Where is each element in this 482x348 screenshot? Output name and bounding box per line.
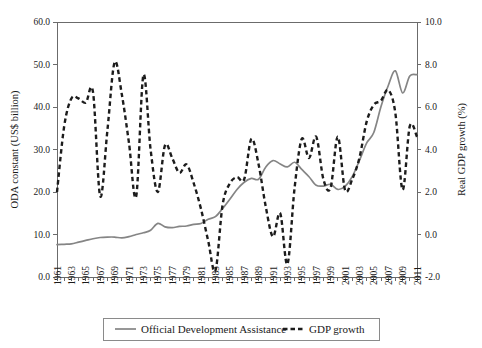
left-tick-label: 20.0 (33, 187, 50, 197)
chart-figure: 0.010.020.030.040.050.060.0 -2.00.02.04.… (0, 0, 482, 348)
x-tick-label: 1973 (139, 266, 149, 285)
right-tick-label: 2.0 (425, 187, 437, 197)
x-tick-label: 1965 (81, 266, 91, 285)
left-tick-label: 50.0 (33, 60, 50, 70)
x-tick-label: 2007 (384, 266, 394, 285)
right-tick-label: 10.0 (425, 17, 442, 27)
x-tick-label: 1975 (153, 266, 163, 285)
right-tick-label: 4.0 (425, 145, 437, 155)
dual-axis-line-chart: 0.010.020.030.040.050.060.0 -2.00.02.04.… (0, 0, 482, 348)
left-tick-label: 30.0 (33, 145, 50, 155)
x-tick-label: 1967 (96, 266, 106, 285)
left-tick-label: 40.0 (33, 102, 50, 112)
x-tick-label: 2001 (341, 266, 351, 285)
legend-label-gdp-growth: GDP growth (309, 323, 365, 335)
right-tick-label: 6.0 (425, 102, 437, 112)
right-tick-label: -2.0 (425, 272, 440, 282)
x-tick-label: 1979 (182, 266, 192, 285)
x-tick-label: 1999 (326, 266, 336, 285)
right-axis-title: Real GDP growth (%) (456, 102, 468, 196)
left-tick-label: 60.0 (33, 17, 50, 27)
x-axis-ticks: 1961196319651967196919711973197519771979… (53, 266, 423, 285)
x-tick-label: 1963 (67, 266, 77, 285)
legend-label-oda: Official Development Assistance (141, 323, 286, 335)
x-tick-label: 1981 (197, 266, 207, 285)
x-tick-label: 1993 (283, 266, 293, 285)
x-tick-label: 1987 (240, 266, 250, 285)
left-tick-label: 0.0 (38, 272, 50, 282)
axis-titles: ODA constant (US$ billion)Real GDP growt… (9, 90, 468, 209)
x-tick-label: 1985 (225, 266, 235, 285)
x-tick-label: 1971 (125, 266, 135, 285)
x-tick-label: 1989 (254, 266, 264, 285)
left-axis-title: ODA constant (US$ billion) (9, 90, 21, 209)
series-line-gdp-growth (57, 61, 417, 271)
right-axis-ticks: -2.00.02.04.06.08.010.0 (417, 17, 442, 282)
x-tick-label: 2003 (355, 266, 365, 285)
x-tick-label: 1991 (269, 266, 279, 285)
right-tick-label: 8.0 (425, 60, 437, 70)
x-tick-label: 1961 (53, 266, 63, 285)
x-tick-label: 2005 (369, 266, 379, 285)
left-tick-label: 10.0 (33, 230, 50, 240)
chart-legend: Official Development AssistanceGDP growt… (103, 318, 379, 340)
right-tick-label: 0.0 (425, 230, 437, 240)
left-axis-ticks: 0.010.020.030.040.050.060.0 (33, 17, 57, 282)
x-tick-label: 2009 (398, 266, 408, 285)
x-tick-label: 1969 (110, 266, 120, 285)
series-layer (57, 61, 417, 271)
x-tick-label: 1977 (168, 266, 178, 285)
x-tick-label: 2011 (413, 266, 423, 285)
x-tick-label: 1995 (297, 266, 307, 285)
x-tick-label: 1997 (312, 266, 322, 285)
